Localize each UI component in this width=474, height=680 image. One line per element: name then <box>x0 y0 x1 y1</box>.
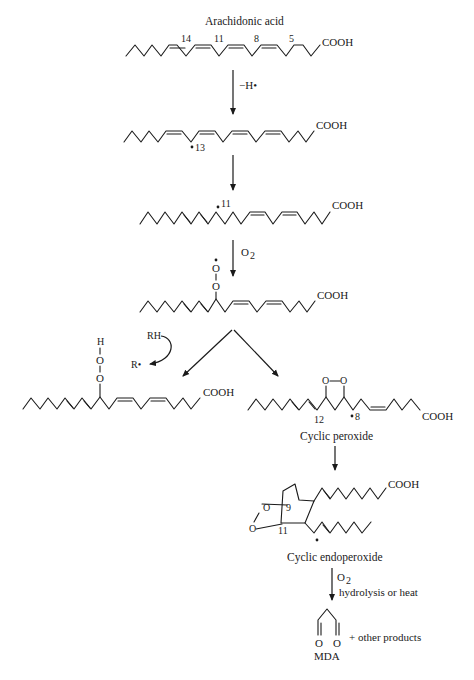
r-radical-label: R• <box>131 359 141 370</box>
cooh-label: COOH <box>422 410 453 422</box>
step6-condition: hydrolysis or heat <box>339 586 418 598</box>
other-products-label: + other products <box>349 631 421 643</box>
cooh-label: COOH <box>316 119 347 131</box>
mda-o2: O <box>333 637 341 649</box>
endoperoxide-position-9: 9 <box>286 502 291 513</box>
hydroperoxide-o2: O <box>96 372 104 384</box>
cooh-label: COOH <box>332 199 363 211</box>
step1-reagent: −H• <box>239 79 257 91</box>
peroxyl-radical-molecule: O O COOH <box>140 259 348 312</box>
rh-label: RH <box>147 330 161 341</box>
radical-13-label: 13 <box>195 142 205 153</box>
arachidonic-acid: Arachidonic acid 14 11 8 5 COOH <box>126 15 353 56</box>
cyclic-peroxide-position-12: 12 <box>314 414 324 425</box>
cooh-label: COOH <box>317 289 348 301</box>
hydroperoxide-h: H <box>97 336 104 347</box>
position-5-label: 5 <box>289 33 294 44</box>
hydroperoxide-molecule: H O O COOH <box>23 336 234 409</box>
peroxyl-o-bottom: O <box>212 280 220 292</box>
cyclic-peroxide-radical-8: 8 <box>355 411 360 422</box>
radical-dot <box>316 539 319 542</box>
step6-reagent: O <box>337 571 345 583</box>
radical-11-label: 11 <box>221 198 231 209</box>
position-8-label: 8 <box>254 33 259 44</box>
cyclic-peroxide-molecule: O O 12 8 COOH Cyclic peroxide <box>248 375 453 443</box>
endoperoxide-o1: O <box>263 502 270 513</box>
cyclic-peroxide-title: Cyclic peroxide <box>300 430 373 443</box>
mda-title: MDA <box>314 650 340 662</box>
step1-arrow: −H• <box>233 70 257 114</box>
hydroperoxide-o1: O <box>96 354 104 366</box>
step6-reagent-subscript: 2 <box>346 575 351 586</box>
step3-arrow: O 2 <box>233 240 255 276</box>
radical-dot <box>191 146 194 149</box>
position-14-label: 14 <box>181 33 191 44</box>
cooh-label: COOH <box>203 386 234 398</box>
radical-dot <box>217 206 220 209</box>
peroxyl-o-top: O <box>212 262 220 274</box>
mda-o1: O <box>315 637 323 649</box>
radical-dot <box>215 259 218 262</box>
radical-13-molecule: 13 COOH <box>124 119 347 153</box>
cyclic-endoperoxide-title: Cyclic endoperoxide <box>287 551 382 564</box>
cooh-label: COOH <box>388 478 419 490</box>
cooh-label: COOH <box>322 36 353 48</box>
reaction-diagram: Arachidonic acid 14 11 8 5 COOH −H• 13 C… <box>0 0 474 680</box>
arachidonic-acid-title: Arachidonic acid <box>205 15 284 27</box>
cyclic-endoperoxide-molecule: O O 9 11 COOH Cyclic endoperoxide <box>249 478 419 564</box>
radical-dot <box>351 415 354 418</box>
mda-molecule: O O MDA + other products <box>314 609 421 662</box>
step3-reagent-subscript: 2 <box>250 250 255 261</box>
position-11-label: 11 <box>214 33 224 44</box>
step6-arrow: O 2 hydrolysis or heat <box>332 568 418 600</box>
step3-reagent: O <box>241 246 249 258</box>
endoperoxide-position-11: 11 <box>278 525 288 536</box>
endoperoxide-o2: O <box>249 523 256 534</box>
branch-arrows <box>183 330 278 376</box>
step4a-hydrogen-abstraction: RH R• <box>131 330 171 370</box>
cyclic-peroxide-o2: O <box>340 375 347 386</box>
cyclic-peroxide-o1: O <box>322 375 329 386</box>
radical-11-molecule: 11 COOH <box>140 198 363 224</box>
